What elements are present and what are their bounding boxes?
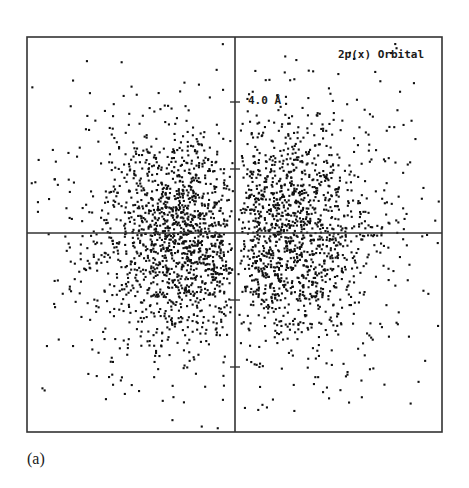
orbital-figure: 2p(x) Orbital 4.0 Å (a) [0, 0, 469, 488]
plot-title: 2p(x) Orbital [338, 48, 424, 61]
scatter-plot [0, 0, 469, 488]
figure-caption: (a) [27, 450, 45, 468]
scale-label: 4.0 Å [248, 94, 281, 107]
